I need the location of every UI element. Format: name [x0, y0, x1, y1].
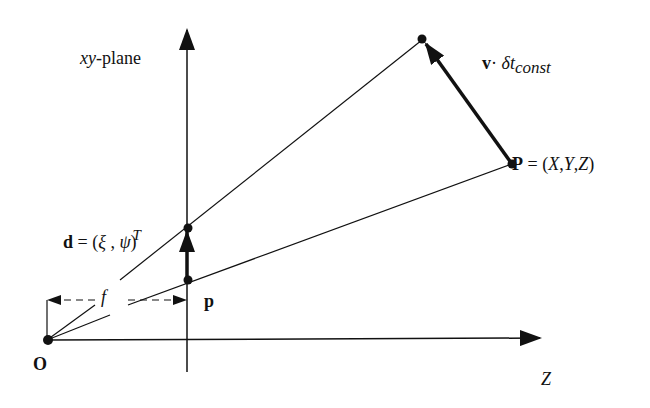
focal-length-label: f: [101, 288, 106, 306]
origin-point: [43, 335, 53, 345]
z-axis: [47, 338, 540, 340]
d-vector-label: d = (ξ , ψ)T: [63, 228, 141, 251]
point-P-label: P = (X,Y,Z): [512, 155, 594, 173]
z-axis-label: Z: [541, 370, 551, 388]
ray-upper: [120, 40, 422, 280]
p-label: p: [204, 292, 214, 310]
point-d: [184, 224, 193, 233]
velocity-label: v· δtconst: [482, 54, 551, 76]
origin-label: O: [33, 355, 47, 373]
point-p: [184, 276, 193, 285]
ray-lower: [47, 315, 110, 340]
ray-upper: [47, 305, 95, 340]
point-moved: [418, 35, 427, 44]
xy-plane-label: xy-plane: [80, 49, 141, 67]
